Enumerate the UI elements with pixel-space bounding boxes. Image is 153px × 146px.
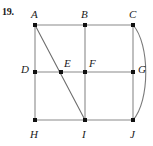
vertex-label-h: H <box>30 129 38 140</box>
vertex-label-f: F <box>89 58 96 69</box>
geometry-figure: 19. ABCDEFGHIJ <box>0 0 153 146</box>
vertex-label-d: D <box>21 64 29 75</box>
vertex-label-j: J <box>130 129 135 140</box>
vertex-dot-j <box>131 118 135 122</box>
vertex-label-c: C <box>129 9 136 20</box>
vertex-dot-a <box>33 23 37 27</box>
vertex-dot-b <box>83 23 87 27</box>
vertex-dot-g <box>131 70 135 74</box>
vertex-label-a: A <box>31 9 38 20</box>
vertex-label-e: E <box>64 58 71 69</box>
vertex-label-b: B <box>81 9 88 20</box>
vertex-dot-e <box>59 70 63 74</box>
vertex-dot-i <box>83 118 87 122</box>
vertex-dot-f <box>83 70 87 74</box>
vertex-dot-c <box>131 23 135 27</box>
vertex-label-g: G <box>138 64 146 75</box>
vertex-dot-d <box>33 70 37 74</box>
vertex-dot-h <box>33 118 37 122</box>
vertex-label-i: I <box>82 129 86 140</box>
